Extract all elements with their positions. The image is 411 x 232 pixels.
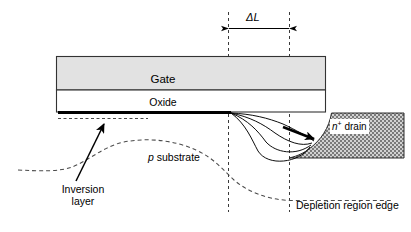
field-line-1 [231, 113, 314, 141]
mosfet-cross-section-figure: Gate Oxide ΔL n+ drain p substrate Inver… [0, 0, 411, 232]
inversion-layer-label-line1: Inversion [40, 184, 126, 196]
inversion-layer-bar [58, 113, 231, 119]
gate-label: Gate [0, 73, 326, 86]
field-line-4 [231, 113, 310, 161]
p-substrate-word: substrate [154, 151, 200, 163]
delta-l-label: ΔL [246, 11, 260, 23]
drain-word: drain [342, 121, 367, 132]
oxide-label: Oxide [0, 97, 326, 109]
inversion-leader-arrow [76, 124, 104, 181]
inversion-layer-leader [76, 124, 104, 181]
field-line-2 [231, 113, 312, 144]
p-substrate-label: p substrate [148, 152, 200, 164]
inversion-layer-label: Inversion layer [40, 184, 126, 208]
depletion-region-edge-label: Depletion region edge [296, 200, 399, 212]
n-plus-drain-label: n+ drain [330, 119, 369, 134]
field-direction-arrow [283, 127, 314, 139]
inversion-layer-label-line2: layer [40, 196, 126, 208]
